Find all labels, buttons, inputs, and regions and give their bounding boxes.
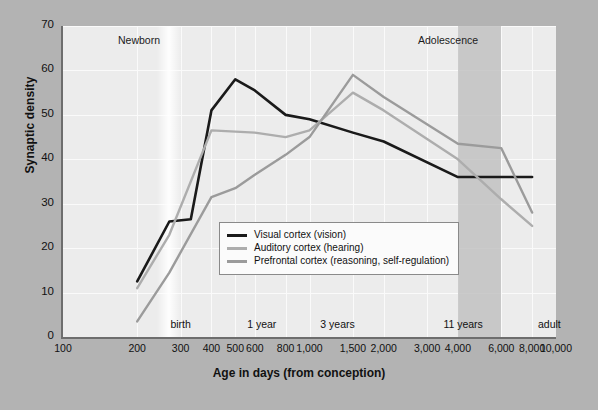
stage-label: 1 year [247,318,276,330]
y-axis-tick-label: 20 [0,240,54,252]
legend-item: Visual cortex (vision) [227,229,449,241]
x-axis-tick-label: 600 [246,342,264,354]
y-axis-tick-label: 30 [0,196,54,208]
series-line [137,75,532,322]
x-axis-tick-label: 100 [54,342,72,354]
y-axis-tick-label: 10 [0,285,54,297]
x-axis-tick-label: 300 [172,342,190,354]
plot-area: Newborn Adolescence [63,26,556,337]
y-axis-line [61,26,63,338]
x-axis-tick-label: 1,000 [296,342,322,354]
x-axis-tick-label: 4,000 [445,342,471,354]
x-axis-tick-label: 400 [203,342,221,354]
stage-label: adult [538,318,561,330]
legend-swatch [227,260,247,263]
stage-label: 3 years [320,318,354,330]
x-axis-tick-label: 200 [128,342,146,354]
legend-item: Prefrontal cortex (reasoning, self-regul… [227,255,449,267]
stage-label: birth [170,318,190,330]
x-axis-tick-label: 10,000 [540,342,572,354]
x-axis-tick-label: 2,000 [371,342,397,354]
x-axis-tick-label: 500 [227,342,245,354]
legend-swatch [227,234,247,237]
series-lines [63,26,556,337]
period-label-adolescence: Adolescence [418,34,478,46]
legend-label: Visual cortex (vision) [254,229,346,241]
x-axis-tick-label: 1,500 [340,342,366,354]
x-axis-tick-label: 3,000 [414,342,440,354]
legend-label: Prefrontal cortex (reasoning, self-regul… [254,255,449,267]
legend-item: Auditory cortex (hearing) [227,242,449,254]
x-axis-tick-label: 800 [277,342,295,354]
legend-label: Auditory cortex (hearing) [254,242,364,254]
legend-swatch [227,247,247,250]
y-axis-tick-label: 70 [0,18,54,30]
x-axis-tick-label: 6,000 [488,342,514,354]
stage-label: 11 years [443,318,483,330]
x-axis-line [61,337,556,339]
x-axis-title: Age in days (from conception) [0,366,598,380]
chart-legend: Visual cortex (vision)Auditory cortex (h… [219,222,459,275]
chart-figure: Newborn Adolescence 010203040506070 1002… [0,0,598,410]
period-label-newborn: Newborn [118,34,160,46]
y-axis-tick-label: 0 [0,329,54,341]
y-axis-title: Synaptic density [23,55,37,195]
